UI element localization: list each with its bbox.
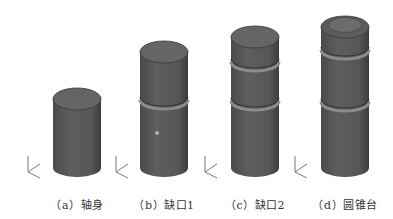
cylinder-models-diagram <box>0 0 393 219</box>
cylinder-c-notch2 <box>231 26 279 177</box>
caption-d: （d）圆锥台 <box>312 196 377 212</box>
axis-triad-icon <box>116 156 128 178</box>
axis-triad-icon <box>205 156 217 178</box>
caption-c: （c）缺口2 <box>225 196 285 212</box>
figure: （a）轴身 （b）缺口1 （c）缺口2 （d）圆锥台 <box>0 0 393 219</box>
cylinder-d-frustum <box>321 16 369 177</box>
cylinder-b-notch1 <box>140 41 188 177</box>
cylinder-a-shaft <box>53 88 101 177</box>
caption-a: （a）轴身 <box>50 196 103 212</box>
caption-b: （b）缺口1 <box>133 196 194 212</box>
axis-triad-icon <box>295 156 307 178</box>
axis-triad-icon <box>28 156 40 178</box>
